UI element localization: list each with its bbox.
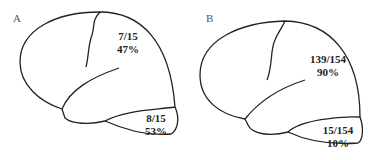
upper-percent-a: 47% [108,43,148,56]
upper-value-b: 139/154 90% [302,53,354,79]
lower-fraction-b: 15/154 [314,124,362,137]
lower-value-a: 8/15 53% [136,112,176,138]
lower-value-b: 15/154 10% [314,124,362,150]
lower-percent-b: 10% [314,137,362,150]
upper-fraction-b: 139/154 [302,53,354,66]
panel-label-a: A [13,12,21,24]
panel-label-b: B [206,12,213,24]
lower-fraction-a: 8/15 [136,112,176,125]
upper-percent-b: 90% [302,66,354,79]
lower-percent-a: 53% [136,125,176,138]
upper-value-a: 7/15 47% [108,30,148,56]
upper-fraction-a: 7/15 [108,30,148,43]
